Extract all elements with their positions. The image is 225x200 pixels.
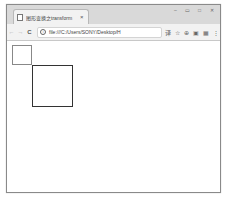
tab-close-icon[interactable]: × <box>80 14 84 20</box>
browser-toolbar: ← → C i file:///C:/Users/SONY/Desktop/H … <box>7 24 220 41</box>
browser-tab[interactable]: 图形变换之transform × <box>13 9 89 24</box>
star-icon[interactable]: ☆ <box>175 29 180 36</box>
title-bar: 图形变换之transform × – ▭ □ ✕ <box>7 5 220 24</box>
screenshot-icon[interactable]: ▦ <box>203 29 209 36</box>
original-square <box>12 45 32 65</box>
translate-icon[interactable]: 译 <box>165 28 171 37</box>
minimize-icon[interactable]: – <box>171 7 180 13</box>
toolbar-icons: 译 ☆ ⊕ ▣ ▦ ⋮ <box>165 28 219 37</box>
page-icon <box>17 14 23 21</box>
forward-icon[interactable]: → <box>16 29 25 35</box>
restore-icon[interactable]: ▭ <box>183 7 192 13</box>
transformed-square <box>32 65 73 107</box>
cast-icon[interactable]: ▣ <box>193 29 199 36</box>
tab-title: 图形变换之transform <box>26 14 78 21</box>
close-icon[interactable]: ✕ <box>207 7 216 13</box>
window-controls: – ▭ □ ✕ <box>171 7 216 13</box>
info-icon[interactable]: i <box>40 29 46 35</box>
menu-icon[interactable]: ⋮ <box>213 29 219 36</box>
reload-icon[interactable]: C <box>25 29 34 35</box>
back-icon[interactable]: ← <box>7 29 16 35</box>
page-content <box>7 41 220 192</box>
maximize-icon[interactable]: □ <box>195 7 204 13</box>
browser-window: 图形变换之transform × – ▭ □ ✕ ← → C i file://… <box>6 4 221 193</box>
address-bar[interactable]: i file:///C:/Users/SONY/Desktop/H <box>37 27 162 38</box>
extension-icon[interactable]: ⊕ <box>184 29 189 36</box>
address-text[interactable]: file:///C:/Users/SONY/Desktop/H <box>49 29 121 35</box>
